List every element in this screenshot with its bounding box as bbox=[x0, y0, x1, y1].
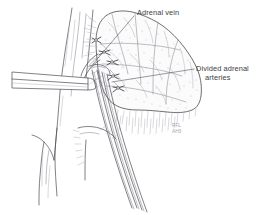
label-divided-arteries-line2: arteries bbox=[196, 73, 249, 82]
figure-root: Adrenal vein Divided adrenalarteries RFL… bbox=[0, 0, 264, 215]
label-divided-arteries-line1: Divided adrenal bbox=[196, 64, 249, 73]
artist-signature-line2: AH3 bbox=[172, 128, 194, 134]
illustration-canvas bbox=[0, 0, 264, 215]
artist-signature: RFL AH3 bbox=[172, 122, 194, 138]
label-adrenal-vein: Adrenal vein bbox=[137, 8, 179, 17]
label-divided-adrenal-arteries: Divided adrenalarteries bbox=[196, 64, 249, 82]
